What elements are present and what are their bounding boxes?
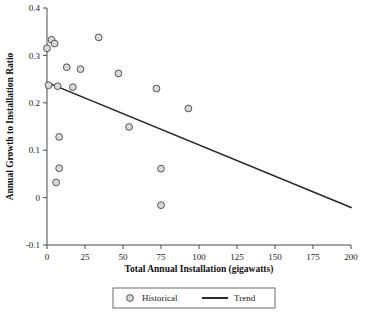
data-point-historical [63, 64, 70, 71]
data-point-historical [77, 66, 84, 73]
data-point-historical [153, 85, 160, 92]
data-point-historical [126, 124, 133, 131]
x-tick-label: 125 [230, 252, 244, 262]
x-tick-label: 50 [119, 252, 129, 262]
y-tick-label: 0.4 [29, 3, 41, 13]
legend-label-trend: Trend [234, 293, 256, 303]
x-tick-label: 75 [157, 252, 167, 262]
x-tick-label: 200 [344, 252, 358, 262]
data-point-historical [53, 179, 60, 186]
y-tick-label: 0.1 [29, 145, 40, 155]
data-point-historical [56, 134, 63, 141]
data-point-historical [158, 202, 165, 209]
legend-label-historical: Historical [142, 293, 178, 303]
data-point-historical [51, 40, 58, 47]
y-tick-label: 0 [36, 193, 41, 203]
data-point-historical [54, 83, 61, 90]
data-point-historical [95, 34, 102, 41]
data-point-historical [56, 165, 63, 172]
y-tick-label: 0.2 [29, 98, 40, 108]
data-point-historical [69, 84, 76, 91]
chart-canvas: -0.100.10.20.30.40255075100125150175200T… [0, 0, 386, 315]
data-point-historical [45, 82, 52, 89]
trend-line [47, 82, 351, 207]
x-tick-label: 150 [268, 252, 282, 262]
scatter-chart: -0.100.10.20.30.40255075100125150175200T… [0, 0, 386, 315]
y-tick-label: -0.1 [26, 240, 40, 250]
y-axis-title: Annual Growth to Installation Ratio [5, 52, 15, 200]
x-tick-label: 100 [192, 252, 206, 262]
data-point-historical [185, 105, 192, 112]
x-tick-label: 0 [45, 252, 50, 262]
x-tick-label: 25 [81, 252, 91, 262]
legend-marker-historical [127, 295, 134, 302]
data-point-historical [115, 70, 122, 77]
data-point-historical [44, 45, 51, 52]
y-tick-label: 0.3 [29, 51, 41, 61]
data-point-historical [158, 165, 165, 172]
x-tick-label: 175 [306, 252, 320, 262]
x-axis-title: Total Annual Installation (gigawatts) [125, 264, 274, 275]
